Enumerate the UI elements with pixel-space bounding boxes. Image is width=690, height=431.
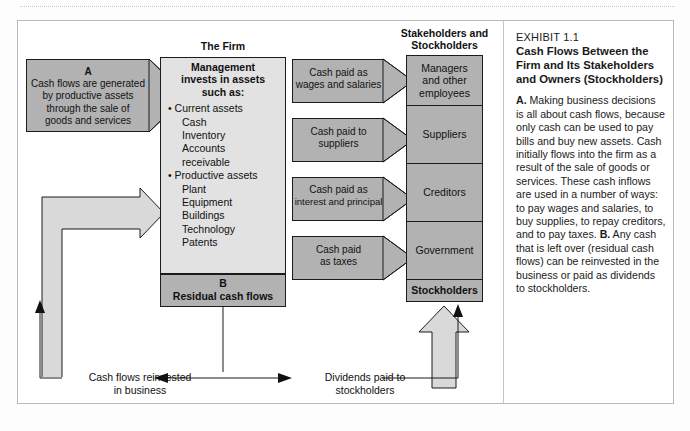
card-vertical-divider bbox=[503, 21, 504, 403]
payment-interest-line-0: Cash paid as bbox=[292, 184, 385, 196]
stakeholder-creditors-label: Creditors bbox=[423, 186, 466, 198]
stakeholder-box-suppliers: Suppliers bbox=[406, 105, 483, 164]
top-dotted-rule bbox=[20, 6, 675, 8]
stakeholder-column: Managers and other employees Suppliers C… bbox=[406, 55, 483, 302]
body-b-prefix: B. bbox=[600, 228, 611, 240]
payment-arrow-interest: Cash paid as interest and principal bbox=[292, 177, 412, 221]
firm-box: Management invests in assets such as: • … bbox=[160, 57, 286, 274]
payment-arrow-taxes: Cash paid as taxes bbox=[292, 236, 412, 280]
bottom-dividends-line-1: stockholders bbox=[297, 384, 433, 397]
stakeholder-managers-line-0: Managers bbox=[419, 62, 470, 74]
firm-heading-line-0: Management bbox=[161, 61, 285, 73]
firm-item-9: Technology bbox=[182, 223, 285, 236]
bottom-reinvest-line-1: in business bbox=[62, 384, 218, 397]
payment-arrow-suppliers: Cash paid to suppliers bbox=[292, 118, 412, 162]
exhibit-title-line-1: Firm and Its Stakeholders bbox=[516, 58, 666, 72]
bottom-label-dividends: Dividends paid to stockholders bbox=[297, 371, 433, 396]
bottom-label-reinvest: Cash flows reinvested in business bbox=[62, 371, 218, 396]
bottom-dividends-line-0: Dividends paid to bbox=[297, 371, 433, 384]
header-stakeholders-line2: Stockholders bbox=[389, 39, 500, 51]
exhibit-title: Cash Flows Between the Firm and Its Stak… bbox=[516, 44, 666, 86]
firm-heading: Management invests in assets such as: bbox=[161, 61, 285, 98]
firm-item-4: receivable bbox=[182, 156, 285, 169]
body-a-prefix: A. bbox=[516, 94, 527, 106]
firm-heading-line-2: such as: bbox=[161, 86, 285, 98]
payment-arrow-interest-text: Cash paid as interest and principal bbox=[292, 184, 385, 209]
payment-arrow-wages-text: Cash paid as wages and salaries bbox=[292, 67, 385, 92]
payment-wages-line-0: Cash paid as bbox=[292, 67, 385, 79]
inflow-label-a: A bbox=[26, 66, 150, 78]
firm-item-3: Accounts bbox=[182, 142, 285, 155]
stakeholder-box-managers: Managers and other employees bbox=[406, 55, 483, 106]
inflow-arrow-text: A Cash flows are generated by productive… bbox=[26, 66, 150, 127]
payment-suppliers-line-1: suppliers bbox=[292, 138, 385, 150]
firm-item-1: Cash bbox=[182, 116, 285, 129]
stakeholder-box-government: Government bbox=[406, 221, 483, 280]
payment-arrow-suppliers-text: Cash paid to suppliers bbox=[292, 126, 385, 151]
firm-item-0: • Current assets bbox=[168, 102, 285, 115]
payment-suppliers-line-0: Cash paid to bbox=[292, 126, 385, 138]
payment-taxes-line-0: Cash paid bbox=[292, 244, 385, 256]
exhibit-body: A. Making business decisions is all abou… bbox=[516, 94, 666, 295]
stakeholder-managers-line-1: and other bbox=[419, 74, 470, 86]
stakeholder-managers-line-2: employees bbox=[419, 87, 470, 99]
payment-arrow-taxes-text: Cash paid as taxes bbox=[292, 244, 385, 269]
body-a-text: Making business decisions is all about c… bbox=[516, 94, 666, 240]
stakeholder-suppliers-label: Suppliers bbox=[423, 128, 467, 140]
firm-asset-list: • Current assets Cash Inventory Accounts… bbox=[161, 102, 285, 249]
exhibit-title-line-2: and Owners (Stockholders) bbox=[516, 72, 666, 86]
firm-item-6: Plant bbox=[182, 183, 285, 196]
payment-wages-line-1: wages and salaries bbox=[292, 79, 385, 91]
firm-item-10: Patents bbox=[182, 236, 285, 249]
payment-taxes-line-1: as taxes bbox=[292, 256, 385, 268]
inflow-line-2: through the sale of bbox=[26, 103, 150, 115]
firm-item-8: Buildings bbox=[182, 209, 285, 222]
inflow-line-0: Cash flows are generated bbox=[26, 78, 150, 90]
exhibit-number: EXHIBIT 1.1 bbox=[516, 31, 666, 44]
inflow-line-3: goods and services bbox=[26, 115, 150, 127]
stakeholder-box-creditors: Creditors bbox=[406, 163, 483, 222]
header-stakeholders-line1: Stakeholders and bbox=[389, 27, 500, 39]
exhibit-figure: The Firm Stakeholders and Stockholders A… bbox=[0, 0, 690, 431]
residual-label-b: B bbox=[161, 277, 285, 290]
stakeholder-stockholders-label: Stockholders bbox=[411, 284, 478, 296]
stakeholder-government-label: Government bbox=[416, 244, 474, 256]
exhibit-sidebar: EXHIBIT 1.1 Cash Flows Between the Firm … bbox=[516, 31, 666, 296]
stakeholder-box-stockholders: Stockholders bbox=[406, 279, 483, 302]
exhibit-title-line-0: Cash Flows Between the bbox=[516, 44, 666, 58]
firm-item-5: • Productive assets bbox=[168, 169, 285, 182]
payment-interest-line-1: interest and principal bbox=[292, 196, 385, 208]
firm-heading-line-1: invests in assets bbox=[161, 73, 285, 85]
firm-item-2: Inventory bbox=[182, 129, 285, 142]
inflow-line-1: by productive assets bbox=[26, 90, 150, 102]
firm-item-7: Equipment bbox=[182, 196, 285, 209]
bottom-reinvest-line-0: Cash flows reinvested bbox=[62, 371, 218, 384]
payment-arrow-wages: Cash paid as wages and salaries bbox=[292, 59, 412, 103]
